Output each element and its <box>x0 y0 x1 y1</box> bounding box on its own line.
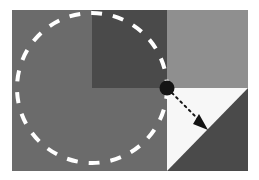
dark-gray-square <box>92 10 167 88</box>
center-marker-dot <box>160 81 175 96</box>
diagram-svg <box>0 0 259 180</box>
light-gray-block <box>167 10 248 88</box>
diagram-canvas <box>0 0 259 180</box>
